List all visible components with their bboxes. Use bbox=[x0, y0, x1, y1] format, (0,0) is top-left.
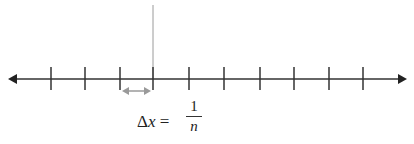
fraction-one-over-n: 1 n bbox=[186, 98, 202, 135]
fraction-denominator: n bbox=[186, 118, 202, 135]
fraction-bar bbox=[186, 116, 202, 117]
interval-double-arrow-icon bbox=[122, 87, 151, 95]
delta-symbol: Δ bbox=[137, 112, 148, 131]
right-arrowhead-icon bbox=[398, 74, 407, 84]
number-line-diagram bbox=[0, 0, 414, 144]
left-arrowhead-icon bbox=[8, 74, 17, 84]
equals-sign: = bbox=[155, 112, 173, 131]
fraction-numerator: 1 bbox=[186, 98, 202, 115]
delta-x-label: Δx = bbox=[137, 112, 174, 132]
